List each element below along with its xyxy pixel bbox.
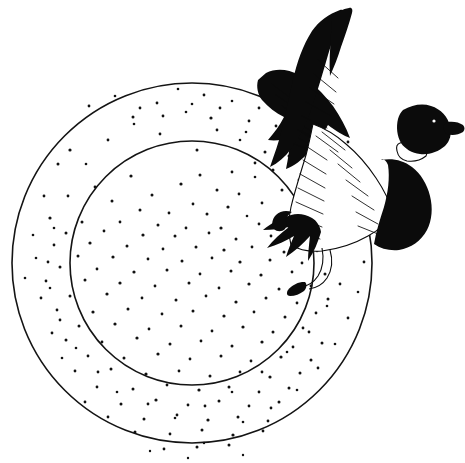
shot-pellet-hole: [191, 103, 194, 106]
shot-pellet-hole: [111, 200, 114, 203]
shot-pellet-hole: [272, 331, 275, 334]
shot-pellet-hole: [272, 169, 275, 172]
shot-pellet-hole: [218, 400, 221, 403]
shot-pellet-hole: [88, 105, 91, 108]
shot-pellet-hole: [132, 388, 135, 391]
shot-pellet-hole: [265, 297, 268, 300]
shot-pellet-hole: [192, 310, 195, 313]
shot-pellet-hole: [254, 176, 257, 179]
shot-pellet-hole: [65, 232, 68, 235]
shot-pellet-hole: [61, 357, 64, 360]
shot-pellet-hole: [65, 339, 68, 342]
shot-pellet-hole: [267, 420, 270, 423]
shot-pellet-hole: [228, 444, 231, 447]
shot-pellet-hole: [288, 387, 291, 390]
shot-pellet-hole: [40, 297, 43, 300]
shot-pellet-hole: [148, 328, 151, 331]
shot-pellet-hole: [216, 129, 219, 132]
shot-pellet-hole: [32, 234, 35, 237]
shot-pellet-hole: [185, 111, 188, 114]
shot-pellet-hole: [157, 224, 160, 227]
shot-pellet-hole: [119, 221, 122, 224]
shot-pellet-hole: [208, 232, 211, 235]
shot-pellet-hole: [181, 260, 184, 263]
shot-pellet-hole: [326, 305, 329, 308]
shot-pellet-hole: [43, 195, 46, 198]
shot-pellet-hole: [116, 391, 119, 394]
shot-pellet-hole: [196, 149, 199, 152]
shot-pellet-hole: [209, 375, 212, 378]
shot-pellet-hole: [218, 287, 221, 290]
shot-pellet-hole: [156, 352, 159, 355]
shot-pellet-hole: [195, 246, 198, 249]
shot-pellet-hole: [141, 297, 144, 300]
shot-pellet-hole: [222, 314, 225, 317]
shot-pellet-hole: [107, 416, 110, 419]
shot-pellet-hole: [105, 292, 108, 295]
shot-pellet-hole: [270, 407, 273, 410]
shot-pellet-hole: [248, 120, 251, 123]
shot-pellet-hole: [178, 370, 181, 373]
shot-pellet-hole: [192, 203, 195, 206]
shot-pellet-hole: [347, 317, 350, 320]
shot-pellet-hole: [268, 375, 271, 378]
shot-pellet-hole: [199, 174, 202, 177]
shot-pellet-hole: [242, 454, 244, 456]
shot-pellet-hole: [175, 299, 178, 302]
shot-pellet-hole: [231, 433, 234, 436]
shot-pellet-hole: [114, 95, 117, 98]
shot-pellet-hole: [185, 227, 188, 230]
shot-pellet-hole: [357, 291, 360, 294]
shot-pellet-hole: [206, 418, 209, 421]
shot-pellet-hole: [149, 450, 151, 452]
shot-pellet-hole: [239, 371, 242, 374]
shot-pellet-hole: [258, 223, 261, 226]
shot-pellet-hole: [174, 235, 177, 238]
shot-pellet-hole: [77, 255, 80, 258]
shot-pellet-hole: [139, 209, 142, 212]
shot-pellet-hole: [120, 403, 123, 406]
shot-pellet-hole: [24, 277, 27, 280]
shot-pellet-hole: [281, 189, 284, 192]
shot-pellet-hole: [141, 233, 144, 236]
shot-pellet-hole: [127, 308, 130, 311]
shot-pellet-hole: [203, 94, 206, 97]
shot-pellet-hole: [247, 282, 250, 285]
shot-pellet-hole: [188, 282, 191, 285]
shot-pellet-hole: [238, 193, 241, 196]
shot-pellet-hole: [315, 312, 318, 315]
shot-pellet-hole: [226, 205, 229, 208]
shot-pellet-hole: [296, 389, 299, 392]
shot-pellet-hole: [118, 281, 121, 284]
shot-pellet-hole: [310, 359, 313, 362]
shot-pellet-hole: [179, 182, 182, 185]
shot-pellet-hole: [133, 123, 136, 126]
shot-pellet-hole: [143, 418, 146, 421]
shot-pellet-hole: [59, 319, 62, 322]
shot-pellet-hole: [159, 133, 162, 136]
shot-pellet-hole: [168, 212, 171, 215]
shot-pellet-hole: [363, 261, 366, 264]
shot-pellet-hole: [201, 429, 204, 432]
shot-pellet-hole: [51, 332, 54, 335]
shot-pellet-hole: [196, 446, 199, 449]
shot-pellet-hole: [219, 226, 222, 229]
shot-pellet-hole: [237, 416, 240, 419]
shot-pellet-hole: [161, 313, 164, 316]
shot-pellet-hole: [49, 287, 52, 290]
shot-pellet-hole: [200, 340, 203, 343]
shot-pellet-hole: [135, 336, 138, 339]
shot-pellet-hole: [238, 260, 241, 263]
shot-pellet-hole: [235, 238, 238, 241]
shot-pellet-hole: [78, 325, 81, 328]
shot-pellet-hole: [308, 331, 311, 334]
shot-pellet-hole: [96, 386, 99, 389]
shot-pellet-hole: [339, 283, 342, 286]
shot-pellet-hole: [84, 279, 87, 282]
shot-pellet-hole: [197, 388, 200, 391]
shot-pellet-hole: [203, 442, 205, 444]
shot-pellet-hole: [278, 401, 281, 404]
shot-pellet-hole: [209, 116, 212, 119]
shot-pellet-hole: [176, 414, 179, 417]
shot-pellet-hole: [84, 401, 87, 404]
